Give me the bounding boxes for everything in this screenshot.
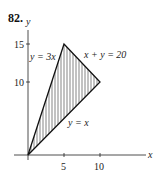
label-x-plus-y-eq-20: x + y = 20 xyxy=(83,49,126,60)
y-tick-label-10: 10 xyxy=(14,77,24,88)
y-tick-label-15: 15 xyxy=(14,39,24,50)
region-diagram: 82. y x 5 10 15 10 y = 3x x + y = 20 y =… xyxy=(0,0,160,176)
label-y-eq-3x: y = 3x xyxy=(29,51,56,62)
problem-number: 82. xyxy=(8,11,23,25)
y-axis-label: y xyxy=(25,16,31,27)
label-y-eq-x: y = x xyxy=(67,117,89,128)
x-tick-label-5: 5 xyxy=(61,161,66,172)
x-axis-label: x xyxy=(147,149,153,160)
x-tick-label-10: 10 xyxy=(94,161,104,172)
